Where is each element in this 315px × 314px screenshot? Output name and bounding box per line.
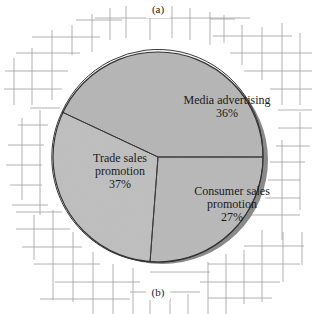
label-trade-sales-pct: 37% <box>80 178 160 191</box>
label-media-advertising: Media advertising 36% <box>168 94 286 120</box>
caption-top: (a) <box>138 3 178 15</box>
label-media-advertising-pct: 36% <box>168 107 286 120</box>
label-consumer-sales-promotion: Consumer sales promotion 27% <box>180 185 284 224</box>
label-consumer-sales-pct: 27% <box>180 211 284 224</box>
label-trade-sales-promotion: Trade sales promotion 37% <box>80 152 160 191</box>
caption-bottom: (b) <box>138 286 178 298</box>
